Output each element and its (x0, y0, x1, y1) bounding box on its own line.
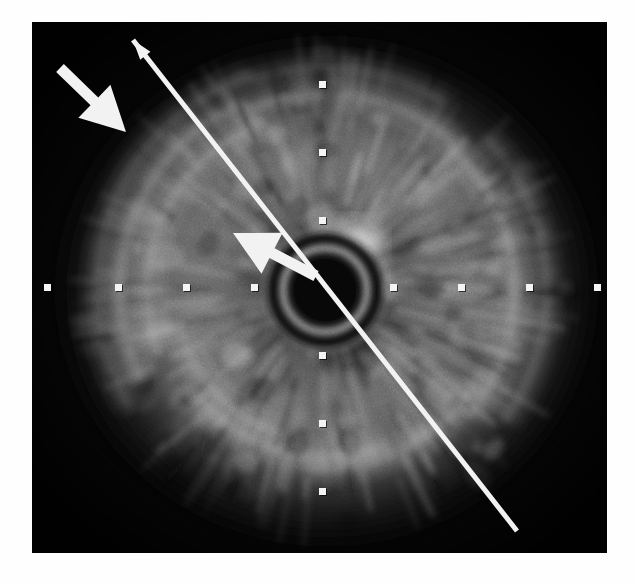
ivus-figure: intravascular-ultrasound cross-sectional… (0, 0, 634, 584)
tick-up-2 (319, 149, 326, 156)
tick-down-1 (319, 352, 326, 359)
tick-left-2 (183, 284, 190, 291)
tick-left-4 (44, 284, 51, 291)
tick-down-2 (319, 420, 326, 427)
tick-right-1 (390, 284, 397, 291)
tick-right-2 (458, 284, 465, 291)
tick-right-3 (526, 284, 533, 291)
tick-up-1 (319, 217, 326, 224)
tick-up-3 (319, 81, 326, 88)
tick-down-3 (319, 488, 326, 495)
tick-right-4 (594, 284, 601, 291)
tick-left-3 (115, 284, 122, 291)
tick-left-1 (251, 284, 258, 291)
